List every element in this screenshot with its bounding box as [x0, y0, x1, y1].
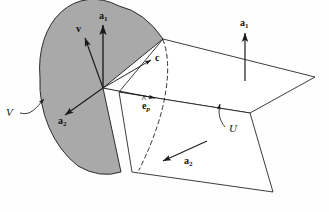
v-callout-arrow — [20, 99, 44, 114]
figure-drawing — [0, 0, 329, 212]
label-v-vector: v — [76, 24, 81, 34]
label-a2-region: a2 — [58, 116, 67, 128]
ep-hat-group: ^e — [142, 101, 146, 111]
label-region-v: V — [6, 107, 13, 118]
figure-container: a1 v a2 c ^ep a1 a2 U V — [0, 0, 329, 212]
label-a2-plane: a2 — [184, 156, 193, 168]
label-a1-plane: a1 — [240, 18, 249, 30]
label-ep-vector: ^ep — [142, 101, 150, 113]
label-c-vector: c — [155, 53, 159, 63]
label-surface-u: U — [229, 123, 237, 134]
label-a1-region: a1 — [99, 11, 108, 23]
